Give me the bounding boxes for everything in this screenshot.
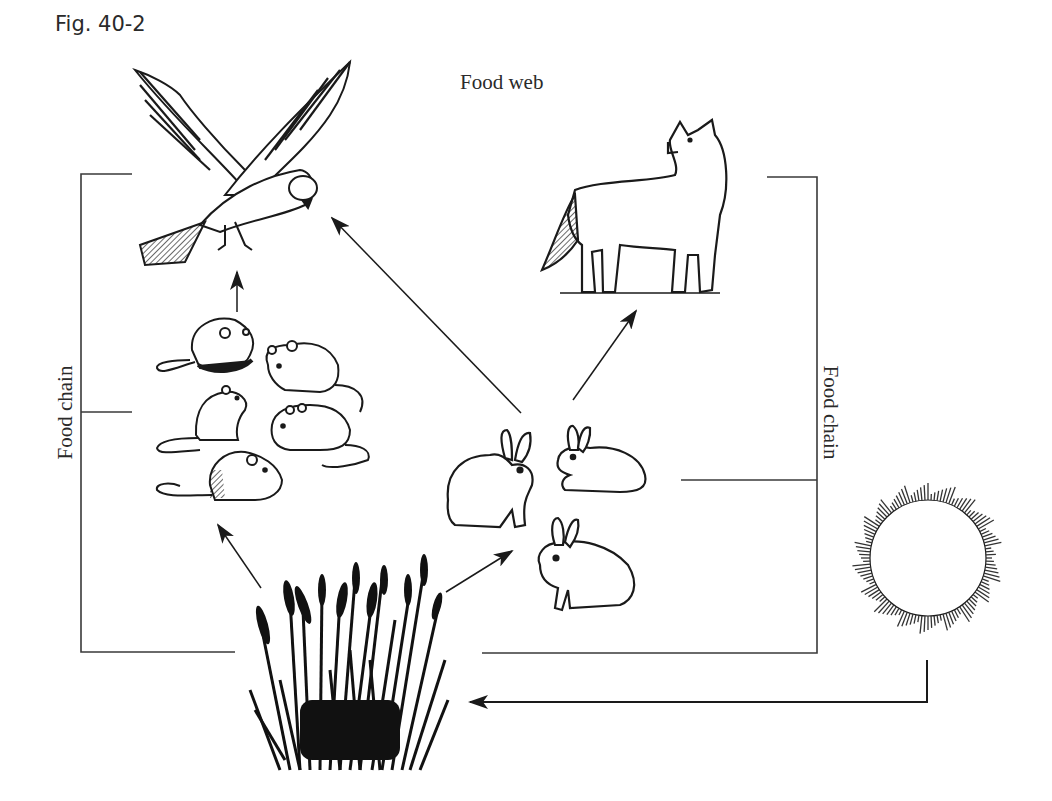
arrow-rabbits-to-fox [573,311,636,400]
arrow-grass-to-rabbits [446,551,512,592]
sun-icon [852,483,1001,634]
mouse-3 [157,386,246,452]
mouse-4 [272,404,369,467]
food-web-diagram [0,0,1052,801]
rabbit-3 [539,518,634,610]
mouse-2 [267,341,363,412]
arrow-sun-to-grass [470,660,927,702]
mice-icon [157,319,369,500]
rabbit-1 [448,430,533,527]
mouse-1 [157,319,253,371]
fox-icon [542,120,726,293]
mouse-5 [157,452,282,500]
rabbits-icon [448,426,646,610]
rabbit-2 [558,426,646,492]
arrow-rabbits-to-hawk [332,218,521,413]
arrow-grass-to-mice [218,525,261,588]
hawk-icon [135,62,350,265]
grass-icon [250,554,448,770]
